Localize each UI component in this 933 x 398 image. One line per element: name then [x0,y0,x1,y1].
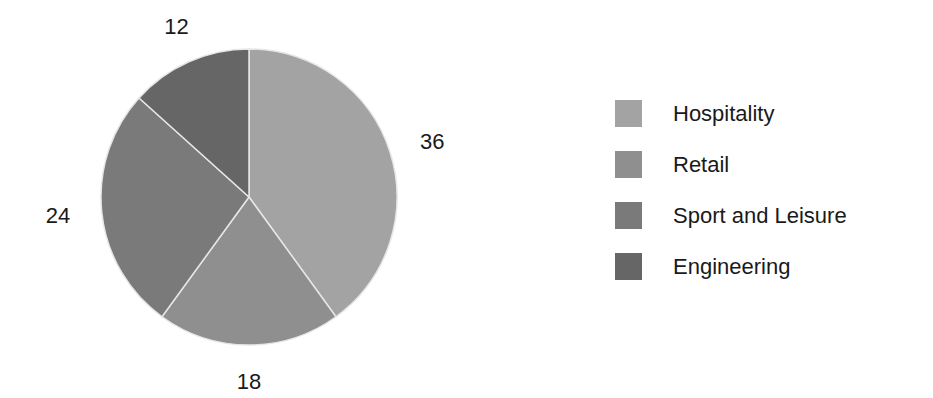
data-label: 36 [420,129,444,154]
data-label: 12 [164,14,188,39]
legend: Hospitality Retail Sport and Leisure Eng… [615,88,847,292]
legend-swatch [615,151,642,178]
legend-swatch [615,202,642,229]
pie-slices [101,49,397,345]
legend-label: Sport and Leisure [673,203,847,229]
legend-item-retail: Retail [615,139,847,190]
legend-swatch [615,253,642,280]
legend-item-sport-and-leisure: Sport and Leisure [615,190,847,241]
legend-item-hospitality: Hospitality [615,88,847,139]
data-label: 18 [237,369,261,394]
data-label: 24 [46,203,70,228]
legend-label: Hospitality [673,101,774,127]
legend-swatch [615,100,642,127]
legend-item-engineering: Engineering [615,241,847,292]
legend-label: Engineering [673,254,790,280]
legend-label: Retail [673,152,729,178]
